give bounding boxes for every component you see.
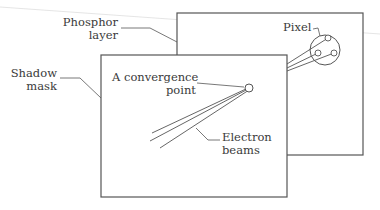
diagram-canvas bbox=[0, 0, 380, 210]
phosphor-layer-label-line2: layer bbox=[58, 29, 118, 42]
phosphor-dot-icon bbox=[331, 50, 337, 56]
convergence-point-circle bbox=[245, 84, 253, 92]
pixel-label-text: Pixel bbox=[283, 21, 323, 34]
phosphor-dot-icon bbox=[315, 50, 321, 56]
electron-beams-label: Electron beams bbox=[222, 131, 282, 157]
crt-shadow-mask-diagram: Phosphor layer Shadow mask A convergence… bbox=[0, 0, 380, 210]
convergence-point-label-line2: point bbox=[112, 84, 196, 97]
shadow-mask-label: Shadow mask bbox=[4, 67, 57, 93]
phosphor-layer-leader-line bbox=[121, 28, 177, 42]
phosphor-dot-icon bbox=[325, 35, 331, 41]
shadow-mask-leader-line bbox=[60, 78, 101, 98]
shadow-mask-label-line2: mask bbox=[4, 80, 57, 93]
electron-beams-label-line2: beams bbox=[222, 144, 282, 157]
pixel-label: Pixel bbox=[283, 21, 323, 34]
convergence-point-label: A convergence point bbox=[112, 71, 196, 97]
phosphor-layer-label: Phosphor layer bbox=[58, 16, 118, 42]
